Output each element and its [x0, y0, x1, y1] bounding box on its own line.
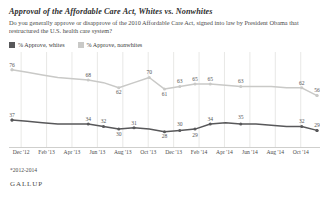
x-axis-tick: Apr '14	[216, 149, 233, 155]
legend-swatch-nonwhites	[78, 42, 84, 48]
legend-item-nonwhites: % Approve, nonwhites	[78, 42, 143, 48]
gallup-brand: GALLUP	[9, 180, 320, 188]
data-label: 65	[207, 76, 213, 82]
data-label: 65	[192, 76, 198, 82]
line-chart-svg: 3734323031283029343532297668627061636565…	[9, 52, 320, 148]
legend-item-whites: % Approve, whites	[9, 42, 65, 48]
legend-label-nonwhites: % Approve, nonwhites	[87, 42, 143, 48]
x-axis-tick-labels: Dec '12Feb '13Apr '13Jun '13Aug '13Oct '…	[9, 149, 320, 161]
data-label: 37	[9, 112, 15, 118]
data-label: 30	[177, 121, 183, 127]
chart-footnote: *2012-2014	[9, 167, 320, 173]
data-label: 31	[131, 119, 137, 125]
x-axis-tick: Aug '13	[114, 149, 132, 155]
x-axis-tick: Oct '13	[140, 149, 156, 155]
data-label: 29	[192, 132, 198, 138]
data-label: 56	[314, 87, 320, 93]
x-axis-tick: Aug '14	[266, 149, 284, 155]
legend-label-whites: % Approve, whites	[18, 42, 65, 48]
chart-subtitle: Do you generally approve or disapprove o…	[9, 19, 309, 36]
data-label: 30	[116, 130, 122, 136]
data-label: 70	[146, 69, 152, 75]
data-label: 61	[162, 90, 168, 96]
x-axis-tick: Apr '13	[64, 149, 81, 155]
data-label: 29	[314, 122, 320, 128]
gallup-chart-card: Approval of the Affordable Care Act, Whi…	[0, 0, 329, 206]
x-axis-tick: Dec '13	[165, 149, 182, 155]
series-whites-line	[12, 120, 317, 132]
chart-legend: % Approve, whites % Approve, nonwhites	[9, 42, 320, 48]
x-axis-tick: Jun '13	[90, 149, 106, 155]
data-label: 63	[238, 78, 244, 84]
x-axis-tick: Dec '12	[13, 149, 30, 155]
data-label: 62	[299, 79, 305, 85]
data-label: 76	[9, 61, 15, 67]
data-label: 63	[177, 78, 183, 84]
x-axis-tick: Jun '14	[242, 149, 258, 155]
x-axis-tick: Feb '13	[38, 149, 54, 155]
data-label: 35	[238, 114, 244, 120]
data-label: 34	[85, 116, 91, 122]
data-label: 34	[207, 116, 213, 122]
page-title: Approval of the Affordable Care Act, Whi…	[9, 7, 320, 16]
data-label: 28	[162, 133, 168, 139]
x-axis-tick: Oct '14	[293, 149, 309, 155]
data-label: 32	[299, 118, 305, 124]
chart-plot-area: 3734323031283029343532297668627061636565…	[9, 52, 320, 148]
data-label: 68	[85, 72, 91, 78]
data-labels: 3734323031283029343532297668627061636565…	[9, 61, 320, 139]
legend-swatch-whites	[9, 42, 15, 48]
data-label: 32	[101, 118, 107, 124]
data-label: 62	[116, 89, 122, 95]
x-axis-tick: Feb '14	[191, 149, 207, 155]
